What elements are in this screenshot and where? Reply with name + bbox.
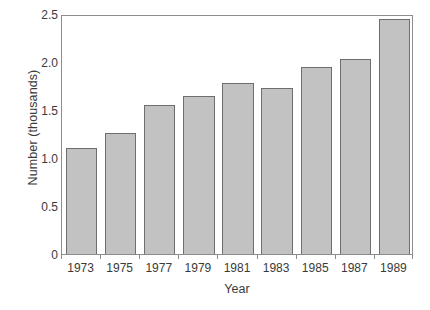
bar-1981 <box>222 83 253 254</box>
bar-1985 <box>301 67 332 254</box>
bar-1979 <box>183 96 214 254</box>
x-tick-label: 1973 <box>61 261 100 275</box>
x-tick-label: 1975 <box>100 261 139 275</box>
plot-area <box>62 16 412 254</box>
x-tick-mark <box>257 255 258 259</box>
y-tick-label: 0 <box>30 249 58 261</box>
x-tick-label: 1985 <box>296 261 335 275</box>
x-tick-label: 1983 <box>257 261 296 275</box>
x-tick-mark <box>100 255 101 259</box>
plot-frame <box>61 15 413 255</box>
x-tick-mark <box>178 255 179 259</box>
x-axis-ticks <box>61 255 413 260</box>
x-tick-mark <box>412 255 413 259</box>
y-tick-label: 2.5 <box>30 9 58 21</box>
bar-1983 <box>261 88 292 254</box>
x-tick-label: 1989 <box>374 261 413 275</box>
x-axis-title: Year <box>61 282 413 296</box>
y-axis-tick-labels: 00.51.01.52.02.5 <box>30 0 58 310</box>
y-tick-label: 1.0 <box>30 153 58 165</box>
x-tick-mark <box>61 255 62 259</box>
bar-1973 <box>66 148 97 254</box>
x-tick-mark <box>139 255 140 259</box>
x-tick-label: 1981 <box>217 261 256 275</box>
x-tick-label: 1987 <box>335 261 374 275</box>
x-tick-label: 1979 <box>178 261 217 275</box>
bar-1975 <box>105 133 136 254</box>
x-axis-tick-labels: 197319751977197919811983198519871989 <box>61 261 413 279</box>
x-tick-mark <box>217 255 218 259</box>
x-tick-mark <box>374 255 375 259</box>
y-tick-label: 0.5 <box>30 201 58 213</box>
bar-1987 <box>340 59 371 254</box>
bar-1977 <box>144 105 175 254</box>
bar-chart: Number (thousands) 00.51.01.52.02.5 1973… <box>0 0 430 310</box>
bar-1989 <box>379 19 410 254</box>
x-tick-mark <box>296 255 297 259</box>
y-tick-label: 1.5 <box>30 105 58 117</box>
y-tick-label: 2.0 <box>30 57 58 69</box>
x-tick-mark <box>335 255 336 259</box>
x-tick-label: 1977 <box>139 261 178 275</box>
